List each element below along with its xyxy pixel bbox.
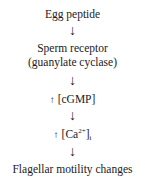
- node-cgmp: ↑[cGMP]: [0, 93, 145, 106]
- up-arrow-icon: ↑: [50, 94, 55, 105]
- cgmp-label: [cGMP]: [58, 93, 96, 105]
- up-arrow-icon: ↑: [54, 129, 59, 140]
- node-sperm-receptor-sublabel: (guanylate cyclase): [0, 56, 145, 69]
- down-arrow-icon: ↓: [0, 74, 145, 88]
- node-flagellar-motility: Flagellar motility changes: [0, 163, 145, 176]
- calcium-charge: 2+: [78, 127, 85, 135]
- node-sperm-receptor: Sperm receptor: [0, 42, 145, 55]
- calcium-subscript: i: [89, 134, 91, 142]
- calcium-label: [Ca: [62, 128, 79, 140]
- down-arrow-icon: ↓: [0, 109, 145, 123]
- node-egg-peptide: Egg peptide: [0, 8, 145, 21]
- down-arrow-icon: ↓: [0, 24, 145, 38]
- down-arrow-icon: ↓: [0, 145, 145, 159]
- node-calcium: ↑[Ca2+]i: [0, 128, 145, 141]
